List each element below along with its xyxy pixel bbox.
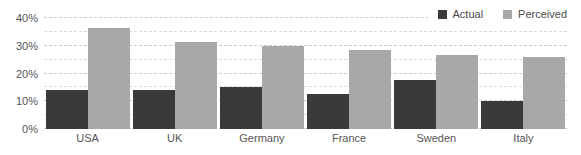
x-axis-tick-label: Sweden	[393, 132, 480, 144]
bar-group	[306, 18, 393, 129]
bar-group	[131, 18, 218, 129]
x-axis-tick-label: USA	[44, 132, 131, 144]
y-axis-tick-label: 40%	[16, 12, 38, 24]
bars-layer	[44, 18, 567, 129]
y-axis: 0%10%20%30%40%	[0, 18, 38, 129]
chart-legend: Actual Perceived	[428, 9, 568, 20]
bar-france-perceived[interactable]	[349, 50, 391, 129]
legend-label-actual: Actual	[453, 9, 484, 20]
legend-item-perceived[interactable]: Perceived	[503, 9, 567, 20]
bar-france-actual[interactable]	[307, 94, 349, 129]
bar-uk-actual[interactable]	[133, 90, 175, 129]
bar-italy-perceived[interactable]	[523, 57, 565, 129]
bar-usa-actual[interactable]	[46, 90, 88, 129]
y-axis-tick-label: 10%	[16, 95, 38, 107]
bar-sweden-actual[interactable]	[394, 80, 436, 129]
bar-group	[393, 18, 480, 129]
bar-group	[44, 18, 131, 129]
plot-area	[44, 18, 567, 129]
legend-swatch-actual	[438, 10, 447, 19]
bar-group	[480, 18, 567, 129]
x-axis-tick-label: UK	[131, 132, 218, 144]
x-axis-tick-label: France	[306, 132, 393, 144]
x-axis: USAUKGermanyFranceSwedenItaly	[44, 132, 567, 144]
legend-swatch-perceived	[503, 10, 512, 19]
y-axis-tick-label: 0%	[22, 123, 38, 135]
bar-sweden-perceived[interactable]	[436, 55, 478, 129]
y-axis-tick-label: 20%	[16, 68, 38, 80]
bar-group	[218, 18, 305, 129]
bar-usa-perceived[interactable]	[88, 28, 130, 129]
bar-uk-perceived[interactable]	[175, 42, 217, 129]
y-axis-tick-label: 30%	[16, 40, 38, 52]
bar-germany-perceived[interactable]	[262, 46, 304, 129]
x-axis-tick-label: Italy	[480, 132, 567, 144]
bar-germany-actual[interactable]	[220, 87, 262, 129]
x-axis-tick-label: Germany	[218, 132, 305, 144]
legend-item-actual[interactable]: Actual	[438, 9, 484, 20]
grouped-bar-chart: Actual Perceived 0%10%20%30%40% USAUKGer…	[0, 0, 581, 155]
legend-label-perceived: Perceived	[518, 9, 567, 20]
bar-italy-actual[interactable]	[481, 101, 523, 129]
